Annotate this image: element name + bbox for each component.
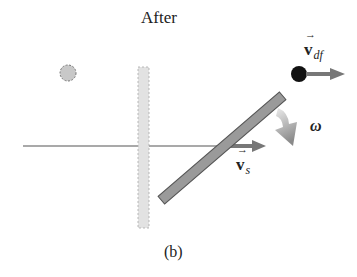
vs-arrow-head xyxy=(252,140,266,152)
vs-symbol: v xyxy=(236,155,245,175)
vdf-arrow-head xyxy=(330,68,345,80)
diagram-title: After xyxy=(141,8,177,28)
vs-label: vs xyxy=(236,155,250,178)
vs-subscript: s xyxy=(246,163,251,177)
omega-arrow xyxy=(275,108,297,146)
omega-label: ω xyxy=(310,117,322,135)
stick xyxy=(158,92,286,204)
vdf-symbol: v xyxy=(304,40,313,60)
initial-stick-ghost xyxy=(138,67,149,228)
vdf-subscript: df xyxy=(314,48,323,62)
vdf-label: vdf xyxy=(304,40,323,63)
diagram-canvas: After vdf ω vs (b) xyxy=(0,0,357,277)
figure-caption: (b) xyxy=(164,243,183,261)
disk xyxy=(291,66,307,82)
initial-disk-ghost xyxy=(60,65,76,81)
